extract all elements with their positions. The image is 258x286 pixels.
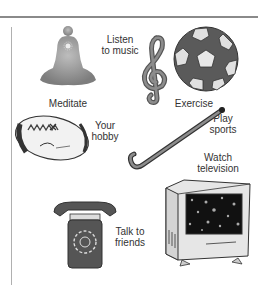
meditation-figure-icon [38, 24, 98, 88]
left-divider [11, 27, 12, 285]
rugby-ball-icon [14, 114, 90, 162]
friends-label: Talk to friends [110, 226, 150, 248]
listen-label: Listen to music [98, 34, 142, 56]
meditate-label: Meditate [42, 98, 94, 109]
treble-clef-icon [140, 34, 170, 106]
television-icon [162, 178, 252, 266]
top-divider [0, 16, 258, 18]
tv-label: Watch television [190, 152, 246, 174]
soccer-ball-icon [173, 26, 239, 92]
hobby-label: Your hobby [87, 120, 123, 142]
